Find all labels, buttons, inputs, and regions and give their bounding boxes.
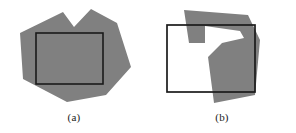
panel-b-caption: (b) [148, 110, 296, 124]
figure-panel-b: (b) [148, 0, 296, 133]
panel-a-diagram [0, 0, 148, 112]
panel-a-caption: (a) [0, 110, 148, 124]
figure-panel-a: (a) [0, 0, 148, 133]
panel-b-diagram [148, 0, 296, 112]
concave-polygon-b [184, 10, 260, 103]
